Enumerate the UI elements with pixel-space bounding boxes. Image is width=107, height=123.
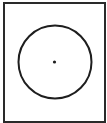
circle-diagram xyxy=(0,0,107,123)
center-point-icon xyxy=(53,60,56,63)
